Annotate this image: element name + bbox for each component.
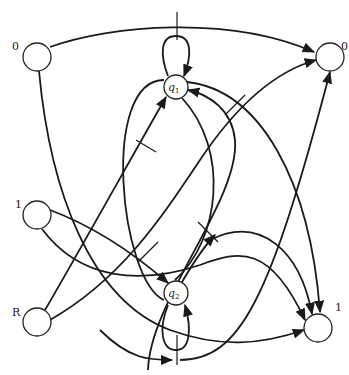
- output-node-1: [304, 314, 332, 342]
- edge-in1-out1: [42, 229, 305, 320]
- edge-q2-out1: [210, 232, 312, 314]
- input-node-1: [23, 201, 51, 229]
- input-node-0: [23, 43, 51, 71]
- edge-q1-self-loop: [163, 36, 190, 76]
- edge-q2-self-loop: [162, 305, 188, 350]
- input-label-1: 1: [15, 198, 22, 211]
- input-label-R: R: [12, 306, 21, 319]
- input-label-0: 0: [12, 40, 19, 53]
- inhibit-tick: [225, 95, 245, 115]
- output-label-0: 0: [341, 40, 348, 53]
- output-node-0: [316, 43, 344, 71]
- output-label-1: 1: [335, 301, 342, 314]
- state-diagram: 0 1 R 0 1 q1 q2: [0, 0, 349, 375]
- edge-in0-bottom-arc: [100, 330, 172, 360]
- edge-q2-out0-back: [180, 72, 330, 360]
- edge-in0-out0: [50, 27, 314, 52]
- input-node-R: [23, 308, 51, 336]
- edge-q2-q1: [148, 90, 235, 370]
- inhibit-tick: [138, 242, 158, 262]
